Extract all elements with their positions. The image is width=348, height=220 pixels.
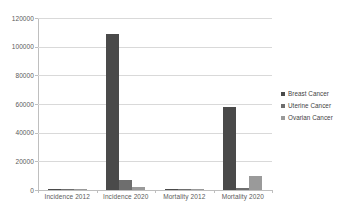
y-axis-tick-label: 0 bbox=[0, 187, 34, 194]
y-axis-tick-label: 80000 bbox=[0, 72, 34, 79]
legend-swatch-icon bbox=[281, 92, 285, 96]
legend-item[interactable]: Uterine Cancer bbox=[281, 102, 347, 109]
x-axis-tick bbox=[272, 190, 273, 193]
bar[interactable] bbox=[106, 34, 119, 190]
x-axis-tick-label: Incidence 2012 bbox=[38, 193, 97, 201]
legend-item[interactable]: Ovarian Cancer bbox=[281, 114, 347, 121]
bar[interactable] bbox=[223, 107, 236, 190]
legend-swatch-icon bbox=[281, 116, 285, 120]
x-axis-tick-label: Incidence 2020 bbox=[97, 193, 156, 201]
legend-label: Breast Cancer bbox=[288, 90, 329, 97]
bar-group bbox=[38, 18, 97, 190]
bar-group bbox=[155, 18, 214, 190]
legend-swatch-icon bbox=[281, 104, 285, 108]
y-axis-tick-label: 100000 bbox=[0, 43, 34, 50]
y-axis-tick-label: 20000 bbox=[0, 158, 34, 165]
bars-layer bbox=[38, 18, 272, 190]
bar-chart: 020000400006000080000100000120000 Incide… bbox=[0, 0, 348, 220]
bar-group bbox=[97, 18, 156, 190]
legend-label: Ovarian Cancer bbox=[288, 114, 333, 121]
legend-label: Uterine Cancer bbox=[288, 102, 331, 109]
bar[interactable] bbox=[119, 180, 132, 190]
bar-group bbox=[214, 18, 273, 190]
y-axis-tick-label: 120000 bbox=[0, 15, 34, 22]
y-axis-labels: 020000400006000080000100000120000 bbox=[0, 0, 34, 220]
chart-legend: Breast CancerUterine CancerOvarian Cance… bbox=[281, 90, 347, 126]
legend-item[interactable]: Breast Cancer bbox=[281, 90, 347, 97]
bar[interactable] bbox=[249, 176, 262, 190]
plot-area bbox=[38, 18, 272, 190]
x-axis-tick-label: Mortality 2012 bbox=[155, 193, 214, 201]
y-axis-tick-label: 60000 bbox=[0, 101, 34, 108]
x-axis-tick-label: Mortality 2020 bbox=[214, 193, 273, 201]
x-axis-labels: Incidence 2012Incidence 2020Mortality 20… bbox=[38, 193, 272, 201]
y-axis-tick-label: 40000 bbox=[0, 129, 34, 136]
